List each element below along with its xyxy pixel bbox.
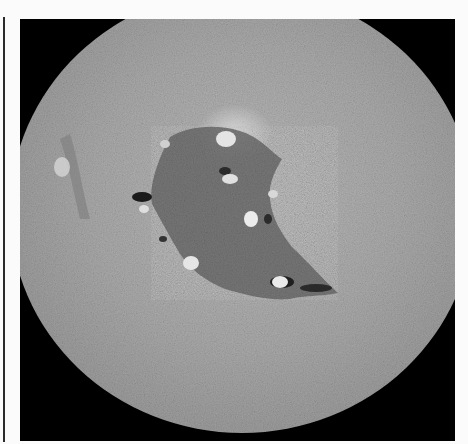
figure-page [0,0,468,444]
micrograph-photo [20,19,455,441]
left-margin-rule [3,17,5,442]
micrograph-image [20,19,455,441]
